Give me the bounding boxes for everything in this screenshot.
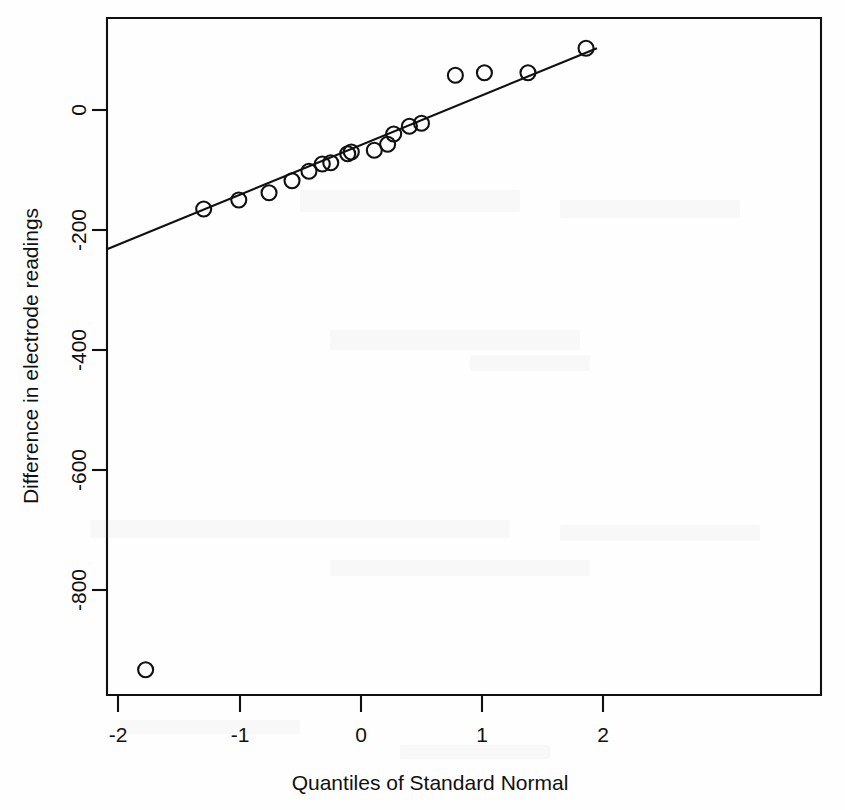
data-point — [138, 662, 153, 677]
data-points — [138, 41, 593, 678]
x-tick-label-4: 2 — [597, 723, 609, 746]
qq-plot-figure: 0 -200 -400 -600 -800 -2 -1 0 1 2 Quanti… — [0, 0, 845, 810]
y-tick-label-2: -400 — [67, 329, 90, 371]
x-axis-ticks — [118, 695, 603, 712]
plot-frame — [107, 18, 821, 695]
y-tick-label-3: -600 — [67, 449, 90, 491]
x-tick-label-0: -2 — [109, 723, 128, 746]
y-axis-title: Difference in electrode readings — [19, 208, 42, 504]
y-tick-label-0: 0 — [67, 104, 90, 116]
y-tick-label-4: -800 — [67, 569, 90, 611]
x-axis-title: Quantiles of Standard Normal — [292, 771, 569, 794]
data-point — [448, 68, 463, 83]
x-tick-label-3: 1 — [476, 723, 488, 746]
data-point — [520, 65, 535, 80]
y-axis-ticks — [92, 110, 107, 590]
x-tick-label-2: 0 — [355, 723, 367, 746]
x-tick-labels: -2 -1 0 1 2 — [109, 723, 609, 746]
chart-canvas: 0 -200 -400 -600 -800 -2 -1 0 1 2 Quanti… — [0, 0, 845, 810]
data-point — [285, 173, 300, 188]
y-tick-label-1: -200 — [67, 209, 90, 251]
data-point — [262, 185, 277, 200]
data-point — [477, 65, 492, 80]
y-tick-labels: 0 -200 -400 -600 -800 — [67, 104, 90, 611]
x-tick-label-1: -1 — [231, 723, 250, 746]
